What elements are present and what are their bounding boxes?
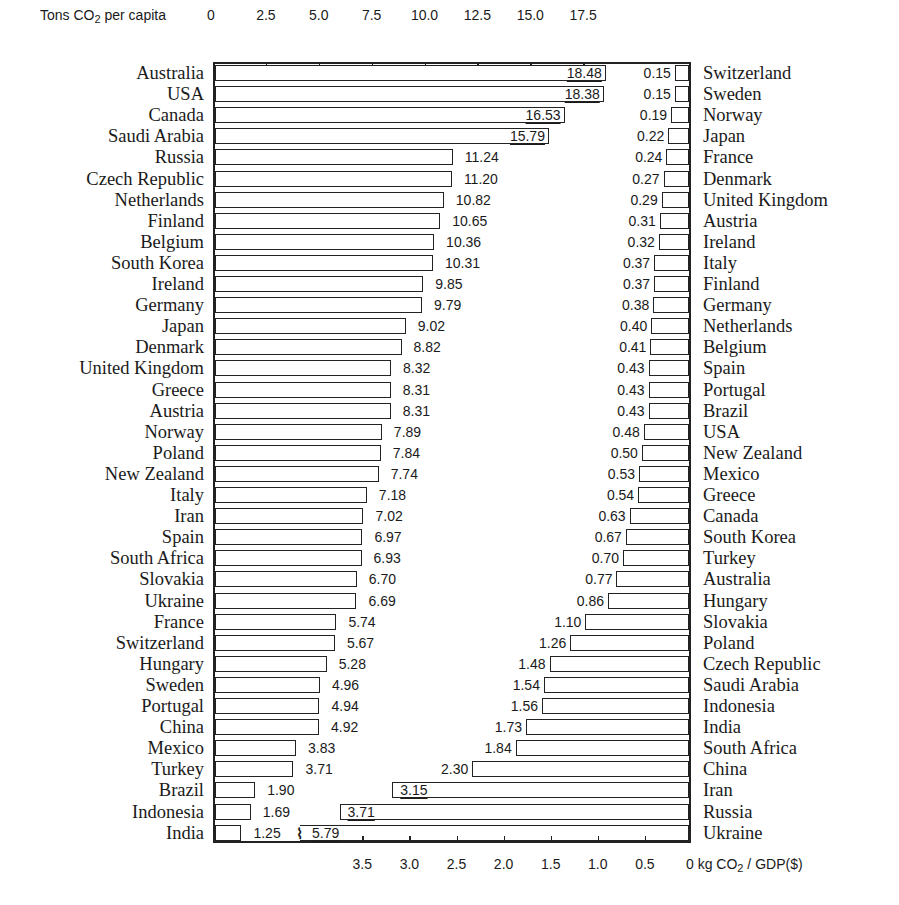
- per-capita-value: 11.20: [464, 169, 498, 190]
- per-capita-value: 8.32: [403, 358, 430, 379]
- right-country-label: Denmark: [703, 169, 772, 190]
- per-capita-value: 3.83: [308, 738, 335, 759]
- kg-per-gdp-bar: [616, 571, 689, 587]
- per-capita-bar: [215, 403, 391, 419]
- per-capita-value: 4.96: [332, 675, 359, 696]
- kg-per-gdp-value: 0.43: [612, 358, 644, 379]
- kg-per-gdp-value: 3.71: [348, 802, 375, 823]
- kg-per-gdp-value: 1.48: [514, 654, 546, 675]
- left-country-label: Czech Republic: [86, 169, 204, 190]
- kg-per-gdp-bar: [650, 339, 689, 355]
- per-capita-value: 5.67: [347, 633, 374, 654]
- chart-row: USA18.380.15Sweden: [0, 84, 899, 105]
- kg-per-gdp-value: 0.70: [587, 548, 619, 569]
- per-capita-value: 1.90: [267, 780, 294, 801]
- per-capita-value: 11.24: [465, 147, 499, 168]
- per-capita-value: 4.92: [331, 717, 358, 738]
- left-country-label: Sweden: [145, 675, 204, 696]
- per-capita-bar: [215, 656, 327, 672]
- right-country-label: France: [703, 147, 753, 168]
- right-country-label: Spain: [703, 358, 745, 379]
- kg-per-gdp-bar: [623, 550, 689, 566]
- per-capita-value: 15.79: [499, 126, 545, 147]
- chart-row: South Korea10.310.37Italy: [0, 253, 899, 274]
- per-capita-value: 6.70: [369, 569, 396, 590]
- kg-per-gdp-value: 0.38: [617, 295, 649, 316]
- kg-per-gdp-bar: [585, 614, 689, 630]
- chart-row: Iran7.020.63Canada: [0, 506, 899, 527]
- per-capita-value: 6.69: [368, 591, 395, 612]
- right-country-label: United Kingdom: [703, 190, 828, 211]
- top-axis-tick-label: 7.5: [362, 7, 381, 23]
- per-capita-value: 10.36: [446, 232, 481, 253]
- kg-per-gdp-value: 0.32: [623, 232, 655, 253]
- per-capita-bar: [215, 318, 406, 334]
- left-country-label: Slovakia: [139, 569, 204, 590]
- kg-per-gdp-value: 0.40: [615, 316, 647, 337]
- left-country-label: Indonesia: [132, 802, 204, 823]
- per-capita-bar: [215, 360, 391, 376]
- bottom-axis-tick-label: 0.5: [635, 856, 654, 872]
- chart-row: Austria8.310.43Brazil: [0, 401, 899, 422]
- per-capita-value: 5.28: [339, 654, 366, 675]
- left-country-label: Austria: [150, 401, 204, 422]
- left-country-label: Hungary: [139, 654, 204, 675]
- per-capita-bar: [215, 424, 382, 440]
- kg-per-gdp-value: 0.37: [618, 253, 650, 274]
- kg-per-gdp-bar: [653, 297, 689, 313]
- chart-row: Ukraine6.690.86Hungary: [0, 591, 899, 612]
- chart-row: Finland10.650.31Austria: [0, 211, 899, 232]
- right-country-label: Netherlands: [703, 316, 792, 337]
- co2-back-to-back-bar-chart: Tons CO2 per capita 02.55.07.510.012.515…: [0, 0, 899, 905]
- right-country-label: Czech Republic: [703, 654, 821, 675]
- kg-per-gdp-bar: [516, 740, 689, 756]
- per-capita-bar: [215, 740, 296, 756]
- chart-row: Hungary5.281.48Czech Republic: [0, 654, 899, 675]
- left-country-label: Canada: [149, 105, 204, 126]
- left-country-label: Italy: [170, 485, 204, 506]
- right-country-label: South Korea: [703, 527, 796, 548]
- bottom-axis-tick: [645, 836, 647, 842]
- chart-row: Mexico3.831.84South Africa: [0, 738, 899, 759]
- bottom-axis-tick-label: 3.0: [400, 856, 419, 872]
- left-country-label: Turkey: [151, 759, 204, 780]
- per-capita-value: 7.18: [379, 485, 406, 506]
- per-capita-bar: [215, 234, 434, 250]
- kg-per-gdp-value: 0.27: [628, 169, 660, 190]
- per-capita-value: 1.25: [253, 823, 280, 844]
- left-country-label: New Zealand: [105, 464, 204, 485]
- kg-per-gdp-bar: [644, 424, 689, 440]
- chart-row: Russia11.240.24France: [0, 147, 899, 168]
- left-country-label: Switzerland: [116, 633, 204, 654]
- chart-row: Poland7.840.50New Zealand: [0, 443, 899, 464]
- right-country-label: Slovakia: [703, 612, 768, 633]
- kg-per-gdp-value: 5.79: [312, 823, 339, 844]
- kg-per-gdp-bar: [638, 487, 689, 503]
- right-country-label: Portugal: [703, 380, 766, 401]
- left-country-label: Greece: [152, 380, 204, 401]
- per-capita-bar: [215, 192, 444, 208]
- right-country-label: Ukraine: [703, 823, 763, 844]
- kg-per-gdp-value: 0.54: [602, 485, 634, 506]
- kg-per-gdp-bar: [550, 656, 689, 672]
- kg-per-gdp-value: 1.73: [490, 717, 522, 738]
- kg-per-gdp-bar: [639, 466, 689, 482]
- kg-per-gdp-bar: [392, 782, 689, 798]
- kg-per-gdp-value: 1.10: [549, 612, 581, 633]
- kg-per-gdp-value: 0.48: [608, 422, 640, 443]
- right-country-label: Canada: [703, 506, 758, 527]
- per-capita-bar: [215, 297, 422, 313]
- chart-row: Sweden4.961.54Saudi Arabia: [0, 675, 899, 696]
- right-country-label: India: [703, 717, 741, 738]
- per-capita-bar: [215, 550, 362, 566]
- kg-per-gdp-value: 1.56: [506, 696, 538, 717]
- chart-row: Netherlands10.820.29United Kingdom: [0, 190, 899, 211]
- kg-per-gdp-bar: [649, 403, 690, 419]
- per-capita-bar: [215, 782, 255, 798]
- kg-per-gdp-bar: [630, 508, 689, 524]
- bottom-axis-tick: [362, 836, 364, 842]
- kg-per-gdp-value: 0.29: [626, 190, 658, 211]
- right-country-label: Poland: [703, 633, 754, 654]
- left-country-label: Brazil: [159, 780, 204, 801]
- kg-per-gdp-value: 0.37: [618, 274, 650, 295]
